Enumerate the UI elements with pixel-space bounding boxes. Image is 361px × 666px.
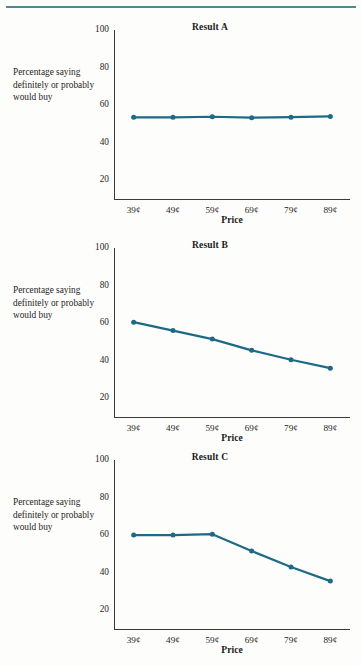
- data-point-marker: [210, 114, 215, 119]
- data-point-marker: [289, 565, 294, 570]
- data-series: [114, 30, 350, 201]
- y-tick-label: 60: [83, 530, 109, 539]
- data-point-marker: [210, 532, 215, 537]
- y-tick-label: 40: [83, 138, 109, 147]
- data-point-marker: [131, 533, 136, 538]
- data-point-marker: [210, 337, 215, 342]
- data-point-marker: [289, 115, 294, 120]
- plot-area: 1008060402039¢49¢59¢69¢79¢89¢: [114, 460, 350, 629]
- x-axis-title: Price: [114, 644, 350, 655]
- y-tick-label: 40: [83, 356, 109, 365]
- y-tick-label: 80: [83, 281, 109, 290]
- data-point-marker: [131, 320, 136, 325]
- y-tick-label: 100: [83, 455, 109, 464]
- x-axis-title: Price: [114, 432, 350, 443]
- y-tick-label: 60: [83, 100, 109, 109]
- x-axis-title: Price: [114, 214, 350, 225]
- y-tick-label: 100: [83, 243, 109, 252]
- y-tick-label: 60: [83, 318, 109, 327]
- y-tick-label: 80: [83, 63, 109, 72]
- data-point-marker: [249, 549, 254, 554]
- y-tick-label: 40: [83, 568, 109, 577]
- figure-page: Result A Percentage saying definitely or…: [0, 0, 361, 666]
- y-tick-label: 20: [83, 394, 109, 403]
- data-point-marker: [328, 579, 333, 584]
- data-point-marker: [249, 115, 254, 120]
- data-point-marker: [328, 114, 333, 119]
- series-line: [134, 322, 331, 368]
- data-series: [114, 248, 350, 419]
- plot-area: 1008060402039¢49¢59¢69¢79¢89¢: [114, 30, 350, 199]
- y-tick-label: 80: [83, 493, 109, 502]
- series-line: [134, 534, 331, 581]
- chart-result-c: Result C Percentage saying definitely or…: [0, 448, 361, 658]
- chart-result-b: Result B Percentage saying definitely or…: [0, 236, 361, 446]
- chart-result-a: Result A Percentage saying definitely or…: [0, 18, 361, 228]
- y-tick-label: 20: [83, 606, 109, 615]
- y-tick-label: 100: [83, 25, 109, 34]
- data-series: [114, 460, 350, 631]
- data-point-marker: [171, 115, 176, 120]
- data-point-marker: [249, 348, 254, 353]
- y-tick-label: 20: [83, 176, 109, 185]
- header-rule: [6, 6, 356, 8]
- data-point-marker: [131, 115, 136, 120]
- data-point-marker: [328, 366, 333, 371]
- data-point-marker: [171, 533, 176, 538]
- plot-area: 1008060402039¢49¢59¢69¢79¢89¢: [114, 248, 350, 417]
- data-point-marker: [289, 357, 294, 362]
- data-point-marker: [171, 328, 176, 333]
- series-line: [134, 116, 331, 117]
